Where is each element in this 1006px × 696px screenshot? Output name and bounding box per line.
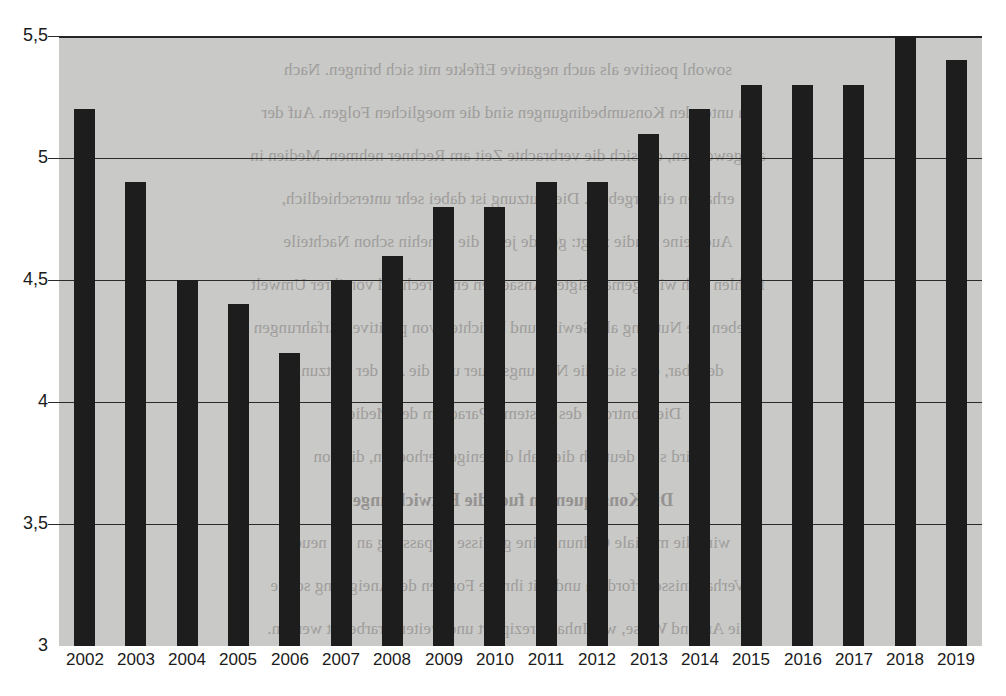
bar bbox=[741, 85, 762, 646]
y-axis-tick-label: 5,5 bbox=[0, 25, 48, 46]
plot-area: sowohl positive als auch negative Effekt… bbox=[59, 36, 982, 646]
x-axis-tick-label: 2019 bbox=[930, 650, 982, 670]
y-axis-tick-label: 5 bbox=[0, 147, 48, 168]
x-axis-tick-label: 2010 bbox=[469, 650, 521, 670]
bar-chart-figure: 33,544,555,5 sowohl positive als auch ne… bbox=[0, 0, 1006, 696]
x-axis-tick-label: 2018 bbox=[879, 650, 931, 670]
y-axis-tick-label: 4,5 bbox=[0, 269, 48, 290]
x-axis-tick-label: 2009 bbox=[418, 650, 470, 670]
x-axis-tick-label: 2014 bbox=[674, 650, 726, 670]
y-axis-tick-mark bbox=[48, 36, 59, 37]
x-axis-tick-label: 2017 bbox=[828, 650, 880, 670]
x-axis-tick-label: 2002 bbox=[59, 650, 111, 670]
x-axis-tick-label: 2004 bbox=[161, 650, 213, 670]
y-axis-tick-label: 3 bbox=[0, 635, 48, 656]
x-axis-tick-label: 2007 bbox=[315, 650, 367, 670]
y-axis: 33,544,555,5 bbox=[0, 0, 52, 696]
y-axis-tick-mark bbox=[48, 524, 59, 525]
bar bbox=[689, 109, 710, 646]
bar bbox=[638, 134, 659, 646]
bar bbox=[279, 353, 300, 646]
bar bbox=[74, 109, 95, 646]
bar bbox=[792, 85, 813, 646]
x-axis-tick-label: 2016 bbox=[777, 650, 829, 670]
x-axis-tick-label: 2013 bbox=[623, 650, 675, 670]
bar bbox=[895, 36, 916, 646]
bar bbox=[484, 207, 505, 646]
bar bbox=[587, 182, 608, 646]
x-axis-tick-label: 2012 bbox=[571, 650, 623, 670]
x-axis-tick-label: 2008 bbox=[366, 650, 418, 670]
x-axis-tick-label: 2005 bbox=[212, 650, 264, 670]
bar bbox=[382, 256, 403, 646]
bar bbox=[331, 280, 352, 646]
y-axis-tick-label: 4 bbox=[0, 391, 48, 412]
x-axis-tick-label: 2003 bbox=[110, 650, 162, 670]
x-axis: 2002200320042005200620072008200920102011… bbox=[59, 650, 982, 680]
bar bbox=[843, 85, 864, 646]
x-axis-tick-label: 2015 bbox=[725, 650, 777, 670]
y-axis-tick-mark bbox=[48, 280, 59, 281]
bar bbox=[228, 304, 249, 646]
bar bbox=[433, 207, 454, 646]
x-axis-tick-label: 2011 bbox=[520, 650, 572, 670]
bar bbox=[946, 60, 967, 646]
bar bbox=[125, 182, 146, 646]
bar bbox=[177, 280, 198, 646]
x-axis-tick-label: 2006 bbox=[264, 650, 316, 670]
y-axis-tick-mark bbox=[48, 158, 59, 159]
bar bbox=[536, 182, 557, 646]
y-axis-tick-label: 3,5 bbox=[0, 513, 48, 534]
bar-series bbox=[59, 36, 982, 646]
y-axis-tick-mark bbox=[48, 402, 59, 403]
